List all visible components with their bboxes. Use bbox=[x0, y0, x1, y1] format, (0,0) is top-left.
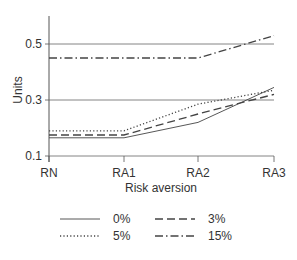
legend-label: 5% bbox=[113, 229, 131, 243]
series-line bbox=[49, 36, 274, 58]
y-axis-label: Units bbox=[11, 76, 25, 103]
series-line bbox=[49, 87, 274, 137]
x-tick-label: RN bbox=[40, 166, 57, 180]
legend-label: 15% bbox=[208, 229, 232, 243]
x-tick-label: RA3 bbox=[262, 166, 286, 180]
legend-label: 3% bbox=[208, 212, 226, 226]
x-tick-label: RA1 bbox=[112, 166, 136, 180]
legend: 0%5%3%15% bbox=[60, 212, 232, 243]
gridlines bbox=[49, 44, 274, 156]
y-tick-label: 0.5 bbox=[25, 37, 42, 51]
x-tick-label: RA2 bbox=[186, 166, 210, 180]
series-line bbox=[49, 94, 274, 135]
x-axis-label: Risk aversion bbox=[125, 181, 197, 195]
series-lines bbox=[49, 36, 274, 138]
x-ticks: RNRA1RA2RA3 bbox=[40, 156, 286, 180]
line-chart: RNRA1RA2RA3 0.10.30.5 Risk aversion Unit… bbox=[0, 0, 297, 260]
y-tick-labels: 0.10.30.5 bbox=[25, 37, 49, 163]
y-tick-label: 0.3 bbox=[25, 93, 42, 107]
legend-label: 0% bbox=[113, 212, 131, 226]
y-tick-label: 0.1 bbox=[25, 149, 42, 163]
